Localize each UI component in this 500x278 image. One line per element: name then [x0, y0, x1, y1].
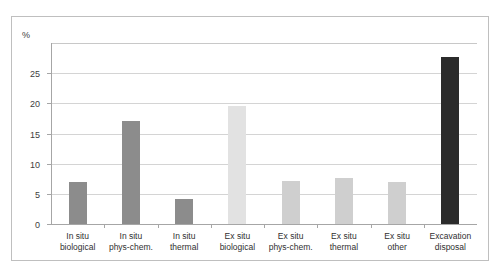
bar — [122, 121, 140, 224]
category-axis: In situ biologicalIn situ phys-chem.In s… — [51, 224, 477, 260]
category-axis-cell: Ex situ other — [371, 224, 424, 260]
category-label: Ex situ other — [384, 231, 410, 253]
bar — [335, 178, 353, 224]
category-label: Ex situ phys-chem. — [269, 231, 313, 253]
bar — [282, 181, 300, 224]
bar — [175, 199, 193, 224]
bars-group — [51, 43, 477, 224]
y-axis-tick-label: 15 — [30, 130, 40, 139]
plot-area: 0510152025 — [51, 43, 477, 224]
category-label: Ex situ thermal — [330, 231, 358, 253]
category-axis-cell: In situ biological — [51, 224, 104, 260]
bar-chart-figure: % 0510152025 In situ biologicalIn situ p… — [11, 16, 489, 261]
category-label: Excavation disposal — [430, 231, 472, 253]
bar — [388, 182, 406, 224]
bar — [228, 106, 246, 224]
category-axis-cell: Ex situ thermal — [317, 224, 370, 260]
category-axis-cell: Excavation disposal — [424, 224, 477, 260]
y-axis-tick-label: 25 — [30, 70, 40, 79]
bar — [441, 57, 459, 224]
category-label: In situ phys-chem. — [109, 231, 153, 253]
category-label: In situ biological — [60, 231, 95, 253]
y-axis-tick-label: 0 — [35, 221, 40, 230]
category-label: Ex situ biological — [220, 231, 255, 253]
y-axis-tick-label: 20 — [30, 100, 40, 109]
bar — [69, 182, 87, 224]
category-axis-cell: Ex situ phys-chem. — [264, 224, 317, 260]
category-axis-cell: In situ thermal — [158, 224, 211, 260]
category-axis-cell: Ex situ biological — [211, 224, 264, 260]
y-axis-tick-label: 10 — [30, 160, 40, 169]
category-axis-cell: In situ phys-chem. — [104, 224, 157, 260]
y-axis-tick-label: 5 — [35, 190, 40, 199]
category-label: In situ thermal — [170, 231, 198, 253]
y-axis-unit-label: % — [22, 31, 30, 40]
